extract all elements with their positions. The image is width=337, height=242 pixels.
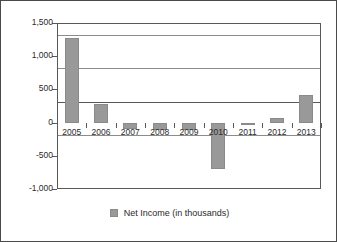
bar-2006 bbox=[94, 104, 108, 123]
y-tick-label: 1,500 bbox=[7, 18, 53, 27]
bar-2013 bbox=[299, 95, 313, 122]
x-tick-mark bbox=[321, 123, 322, 128]
x-tick-mark bbox=[262, 123, 263, 128]
bar-slot bbox=[262, 23, 291, 189]
legend-label: Net Income (in thousands) bbox=[124, 208, 230, 218]
bar-slot bbox=[86, 23, 115, 189]
x-tick-label: 2011 bbox=[239, 127, 257, 137]
x-tick-label: 2010 bbox=[209, 127, 228, 137]
bar-slot bbox=[145, 23, 174, 189]
x-tick-mark bbox=[145, 123, 146, 128]
x-tick-label: 2008 bbox=[150, 127, 169, 137]
chart-legend: Net Income (in thousands) bbox=[1, 208, 337, 218]
chart-figure: 1,5001,0005000-500-1,000 200520062007200… bbox=[0, 0, 337, 242]
y-tick-label: 1,000 bbox=[7, 51, 53, 60]
y-tick-label: 0 bbox=[7, 118, 53, 127]
bar-slot bbox=[204, 23, 233, 189]
x-tick-mark bbox=[116, 123, 117, 128]
x-tick-label: 2012 bbox=[268, 127, 287, 137]
bar-slot bbox=[116, 23, 145, 189]
bar-slot bbox=[57, 23, 86, 189]
x-tick-mark bbox=[86, 123, 87, 128]
y-tick-label: 500 bbox=[7, 84, 53, 93]
bar-group bbox=[57, 23, 321, 189]
bar-slot bbox=[292, 23, 321, 189]
x-tick-mark bbox=[57, 123, 58, 128]
bar-2012 bbox=[270, 118, 284, 122]
x-tick-label: 2007 bbox=[121, 127, 140, 137]
x-tick-mark bbox=[292, 123, 293, 128]
bar-2005 bbox=[65, 38, 79, 123]
x-tick-label: 2005 bbox=[62, 127, 81, 137]
x-tick-label: 2009 bbox=[180, 127, 199, 137]
bar-slot bbox=[233, 23, 262, 189]
legend-color-swatch bbox=[110, 209, 118, 217]
x-tick-mark bbox=[233, 123, 234, 128]
y-tick-label: -1,000 bbox=[7, 184, 53, 193]
y-tick-label: -500 bbox=[7, 151, 53, 160]
x-tick-mark bbox=[174, 123, 175, 128]
x-tick-label: 2013 bbox=[297, 127, 316, 137]
x-tick-label: 2006 bbox=[92, 127, 111, 137]
x-tick-mark bbox=[204, 123, 205, 128]
bar-slot bbox=[174, 23, 203, 189]
bar-2011 bbox=[241, 123, 255, 126]
